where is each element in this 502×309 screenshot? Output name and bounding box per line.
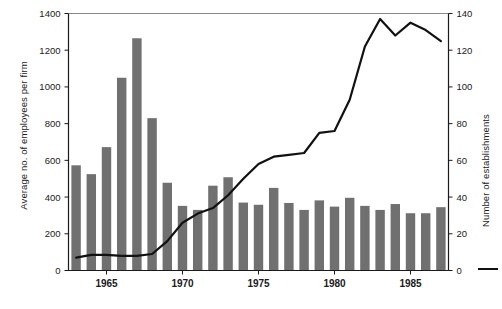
y-axis-left-tick-label: 400 bbox=[45, 192, 61, 203]
bar bbox=[208, 186, 217, 271]
bar bbox=[299, 210, 308, 271]
y-axis-left-tick-label: 200 bbox=[45, 228, 61, 239]
bar bbox=[147, 118, 156, 270]
y-axis-right-tick-label: 140 bbox=[457, 8, 473, 19]
bar bbox=[117, 78, 126, 271]
bar bbox=[163, 183, 172, 271]
bar bbox=[132, 38, 141, 270]
y-axis-left-tick-label: 1400 bbox=[39, 8, 60, 19]
bar bbox=[421, 213, 430, 270]
y-axis-right-ticks: 020406080100120140 bbox=[449, 8, 473, 276]
x-axis-ticks: 19651970197519801985 bbox=[95, 271, 422, 289]
bar bbox=[330, 207, 339, 271]
bar bbox=[254, 205, 263, 271]
bar bbox=[284, 203, 293, 271]
y-axis-right-tick-label: 120 bbox=[457, 45, 473, 56]
x-axis-tick-label: 1970 bbox=[171, 278, 194, 289]
y-axis-right-tick-label: 40 bbox=[457, 192, 468, 203]
bar bbox=[269, 188, 278, 271]
y-axis-left-tick-label: 1200 bbox=[39, 45, 60, 56]
x-axis-tick-label: 1980 bbox=[323, 278, 346, 289]
bar bbox=[391, 204, 400, 270]
y-axis-right-tick-label: 0 bbox=[457, 265, 462, 276]
bar bbox=[315, 200, 324, 270]
y-axis-right-tick-label: 100 bbox=[457, 81, 473, 92]
chart-container: Average no. of employees per firm Number… bbox=[0, 0, 502, 309]
bar bbox=[71, 165, 80, 270]
y-axis-right-tick-label: 80 bbox=[457, 118, 468, 129]
y-axis-right-tick-label: 60 bbox=[457, 155, 468, 166]
x-axis-tick-label: 1975 bbox=[247, 278, 270, 289]
bar bbox=[360, 206, 369, 271]
y-axis-left-tick-label: 1000 bbox=[39, 81, 60, 92]
y-axis-right-tick-label: 20 bbox=[457, 228, 468, 239]
bar bbox=[436, 207, 445, 270]
x-axis-tick-label: 1965 bbox=[95, 278, 118, 289]
bar bbox=[193, 210, 202, 271]
bar bbox=[102, 147, 111, 270]
bar bbox=[406, 213, 415, 270]
y-axis-left-tick-label: 800 bbox=[45, 118, 61, 129]
bar bbox=[178, 206, 187, 271]
bar-series bbox=[71, 38, 445, 270]
y-axis-left-tick-label: 0 bbox=[55, 265, 60, 276]
bar bbox=[345, 198, 354, 271]
bar bbox=[375, 210, 384, 271]
y-axis-left-tick-label: 600 bbox=[45, 155, 61, 166]
bar bbox=[239, 203, 248, 271]
chart-plot-area: 0200400600800100012001400 02040608010012… bbox=[0, 0, 502, 309]
x-axis-tick-label: 1985 bbox=[399, 278, 422, 289]
y-axis-left-ticks: 0200400600800100012001400 bbox=[39, 8, 68, 276]
